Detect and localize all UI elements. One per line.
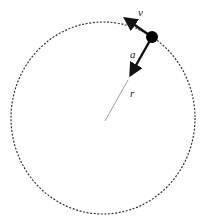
orbit-path — [11, 22, 195, 214]
acceleration-label: a — [130, 49, 136, 60]
circular-motion-diagram — [0, 0, 206, 223]
particle — [146, 31, 158, 43]
radius-label: r — [130, 88, 134, 99]
velocity-label: v — [138, 7, 143, 18]
radius-line — [105, 80, 128, 121]
